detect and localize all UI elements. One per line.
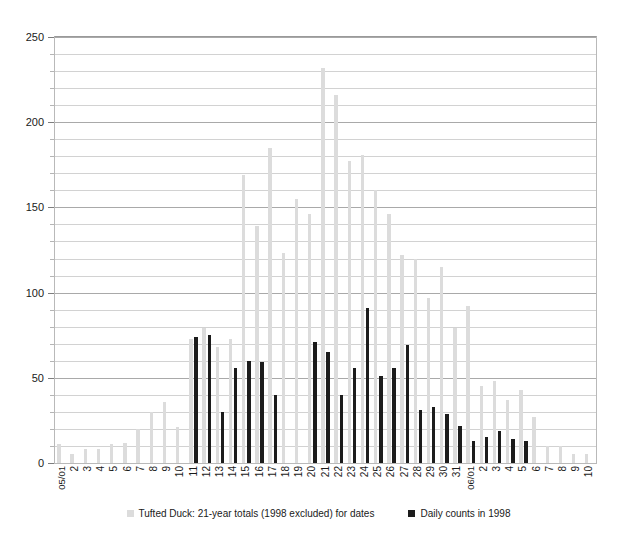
bar-21-year-total xyxy=(585,454,588,463)
bar-21-year-total xyxy=(70,454,73,463)
bar-group xyxy=(134,37,147,463)
x-tick-label: 8 xyxy=(558,466,568,472)
y-tick-label: 150 xyxy=(26,201,44,213)
bar-daily-count-1998 xyxy=(432,407,435,463)
bar-daily-count-1998 xyxy=(340,395,343,463)
x-tick-label: 4 xyxy=(505,466,515,472)
bar-daily-count-1998 xyxy=(498,431,501,463)
bar-21-year-total xyxy=(57,444,60,463)
x-tick-label: 05/01 xyxy=(57,466,67,490)
bar-21-year-total xyxy=(440,267,443,463)
x-tick-label: 24 xyxy=(360,466,370,477)
legend-item[interactable]: Tufted Duck: 21-year totals (1998 exclud… xyxy=(127,508,375,519)
bar-daily-count-1998 xyxy=(221,412,224,463)
x-tick-label: 6 xyxy=(532,466,542,472)
bar-daily-count-1998 xyxy=(379,376,382,463)
x-tick-label: 12 xyxy=(202,466,212,477)
bar-group xyxy=(398,37,411,463)
bar-daily-count-1998 xyxy=(247,361,250,463)
bar-group xyxy=(121,37,134,463)
bar-21-year-total xyxy=(84,449,87,463)
x-tick-label: 8 xyxy=(149,466,159,472)
bar-group xyxy=(81,37,94,463)
bar-21-year-total xyxy=(532,417,535,463)
x-tick-label: 25 xyxy=(373,466,383,477)
bar-daily-count-1998 xyxy=(472,441,475,463)
x-tick-label: 9 xyxy=(162,466,172,472)
x-tick-label: 06/01 xyxy=(466,466,476,490)
bar-group xyxy=(490,37,503,463)
bar-21-year-total xyxy=(136,429,139,463)
bar-21-year-total xyxy=(268,148,271,463)
bar-21-year-total xyxy=(334,95,337,463)
y-axis: 050100150200250 xyxy=(0,36,54,464)
bar-21-year-total xyxy=(189,339,192,463)
legend-label: Daily counts in 1998 xyxy=(420,508,510,519)
bar-group xyxy=(411,37,424,463)
bar-21-year-total xyxy=(374,190,377,463)
bar-21-year-total xyxy=(427,298,430,463)
bar-21-year-total xyxy=(466,306,469,463)
legend-swatch-icon xyxy=(127,510,134,517)
bar-group xyxy=(332,37,345,463)
bar-group xyxy=(279,37,292,463)
bar-daily-count-1998 xyxy=(313,342,316,463)
x-tick-label: 16 xyxy=(255,466,265,477)
x-tick-label: 5 xyxy=(518,466,528,472)
bar-21-year-total xyxy=(519,390,522,463)
bar-21-year-total xyxy=(546,446,549,463)
bar-21-year-total xyxy=(453,328,456,463)
bar-group xyxy=(68,37,81,463)
bar-21-year-total xyxy=(321,68,324,463)
bar-daily-count-1998 xyxy=(511,439,514,463)
x-tick-label: 5 xyxy=(109,466,119,472)
x-tick-label: 20 xyxy=(307,466,317,477)
bar-group xyxy=(556,37,569,463)
bar-21-year-total xyxy=(295,199,298,463)
x-tick-label: 22 xyxy=(334,466,344,477)
x-tick-label: 19 xyxy=(294,466,304,477)
tufted-duck-bar-chart: · · · · · · · 050100150200250 05/0123456… xyxy=(0,0,637,555)
clipped-caption-strip: · · · · · · · xyxy=(0,0,637,9)
bar-daily-count-1998 xyxy=(406,345,409,463)
bar-21-year-total xyxy=(216,347,219,463)
bar-group xyxy=(464,37,477,463)
legend-item[interactable]: Daily counts in 1998 xyxy=(408,508,510,519)
legend-swatch-icon xyxy=(408,510,415,517)
bar-daily-count-1998 xyxy=(194,337,197,463)
x-tick-label: 3 xyxy=(83,466,93,472)
bar-group xyxy=(253,37,266,463)
bar-group xyxy=(147,37,160,463)
legend-label: Tufted Duck: 21-year totals (1998 exclud… xyxy=(139,508,375,519)
bar-group xyxy=(95,37,108,463)
x-tick-label: 29 xyxy=(426,466,436,477)
bar-daily-count-1998 xyxy=(366,308,369,463)
x-tick-label: 13 xyxy=(215,466,225,477)
bar-21-year-total xyxy=(480,386,483,463)
bar-group xyxy=(358,37,371,463)
bar-daily-count-1998 xyxy=(485,437,488,463)
x-tick-label: 4 xyxy=(96,466,106,472)
x-tick-label: 2 xyxy=(479,466,489,472)
bar-group xyxy=(372,37,385,463)
x-tick-label: 18 xyxy=(281,466,291,477)
bar-21-year-total xyxy=(308,214,311,463)
bar-21-year-total xyxy=(229,339,232,463)
bar-21-year-total xyxy=(255,226,258,463)
bar-21-year-total xyxy=(414,259,417,463)
x-tick-label: 7 xyxy=(136,466,146,472)
bar-group xyxy=(385,37,398,463)
bar-21-year-total xyxy=(110,444,113,463)
x-tick-label: 3 xyxy=(492,466,502,472)
bar-group xyxy=(266,37,279,463)
y-tick-label: 0 xyxy=(38,457,44,469)
bar-group xyxy=(530,37,543,463)
bar-group xyxy=(504,37,517,463)
x-tick-label: 31 xyxy=(452,466,462,477)
bar-daily-count-1998 xyxy=(445,414,448,463)
y-tick-label: 200 xyxy=(26,116,44,128)
bar-group xyxy=(424,37,437,463)
bar-21-year-total xyxy=(361,155,364,463)
bar-21-year-total xyxy=(163,402,166,463)
bar-21-year-total xyxy=(493,381,496,463)
